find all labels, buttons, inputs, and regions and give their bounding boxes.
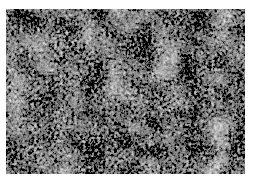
- noise-texture: [6, 9, 245, 174]
- texture-image: [6, 9, 245, 174]
